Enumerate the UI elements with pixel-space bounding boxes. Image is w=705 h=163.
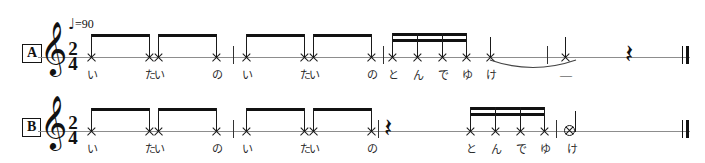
beam <box>313 108 372 111</box>
notehead-circle-x <box>564 125 577 138</box>
system-b: B 𝄞 2 4 𝄽 <box>0 85 705 163</box>
lyric-syllable: の <box>207 70 227 81</box>
beam <box>313 34 372 37</box>
notehead-x <box>515 126 526 137</box>
lyric-syllable: け <box>481 70 501 81</box>
barline <box>233 46 234 64</box>
lyric-extension-dash: — <box>556 70 576 81</box>
notehead-x <box>153 126 164 137</box>
eighth-rest-icon: 𝄽 <box>384 114 392 141</box>
notehead-x <box>211 52 222 63</box>
barline <box>233 120 234 138</box>
notehead-x <box>490 126 501 137</box>
beam-secondary <box>470 113 545 116</box>
notehead-x <box>86 52 97 63</box>
beam <box>470 107 545 110</box>
system-a: ♩=90 A 𝄞 2 4 <box>0 0 705 88</box>
lyric-syllable: い <box>237 144 257 155</box>
final-barline <box>682 46 690 64</box>
sheet-music: ♩=90 A 𝄞 2 4 <box>0 0 705 163</box>
treble-clef-icon: 𝄞 <box>40 99 67 145</box>
lyric-syllable: い <box>304 144 324 155</box>
lyric-syllable: い <box>82 144 102 155</box>
tempo-marking: ♩=90 <box>68 14 94 32</box>
notehead-x <box>461 52 472 63</box>
notehead-x <box>366 52 377 63</box>
lyric-syllable: の <box>362 70 382 81</box>
final-barline <box>682 120 690 138</box>
lyric-syllable: け <box>562 144 582 155</box>
notehead-x <box>437 52 448 63</box>
notehead-x <box>211 126 222 137</box>
barline <box>378 120 379 138</box>
beam <box>246 108 305 111</box>
lyric-syllable: の <box>207 144 227 155</box>
lyric-syllable: と <box>461 144 481 155</box>
tempo-equals: = <box>75 17 82 31</box>
time-signature: 2 4 <box>65 41 81 71</box>
notehead-x <box>241 126 252 137</box>
notehead-x <box>366 126 377 137</box>
lyric-syllable: ん <box>408 70 428 81</box>
notehead-x <box>241 52 252 63</box>
staff-line <box>38 57 690 58</box>
lyric-syllable: い <box>237 70 257 81</box>
notehead-x <box>153 52 164 63</box>
notehead-x <box>308 126 319 137</box>
beam <box>158 108 217 111</box>
time-signature-denominator: 4 <box>65 56 81 71</box>
lyric-syllable: い <box>149 70 169 81</box>
tempo-bpm: 90 <box>82 17 94 31</box>
lyric-syllable: で <box>433 70 453 81</box>
notehead-x <box>387 52 398 63</box>
treble-clef-icon: 𝄞 <box>40 25 67 71</box>
lyric-syllable: と <box>383 70 403 81</box>
beam <box>91 108 150 111</box>
time-signature-denominator: 4 <box>65 130 81 145</box>
notehead-x <box>412 52 423 63</box>
beam-secondary <box>392 39 467 42</box>
lyric-syllable: い <box>82 70 102 81</box>
notehead-x <box>465 126 476 137</box>
lyric-syllable: ゆ <box>535 144 555 155</box>
barline <box>556 120 557 138</box>
notehead-x <box>560 52 571 63</box>
beam <box>158 34 217 37</box>
staff-line <box>38 131 690 132</box>
tempo-note-icon: ♩ <box>68 15 75 33</box>
lyric-syllable: で <box>511 144 531 155</box>
notehead-x <box>539 126 550 137</box>
beam <box>392 33 467 36</box>
rehearsal-mark-b: B <box>22 118 41 137</box>
lyric-syllable: ん <box>486 144 506 155</box>
beam <box>246 34 305 37</box>
barline <box>383 46 384 64</box>
lyric-syllable: い <box>304 70 324 81</box>
lyric-syllable: の <box>362 144 382 155</box>
notehead-x <box>308 52 319 63</box>
lyric-syllable: い <box>149 144 169 155</box>
time-signature: 2 4 <box>65 115 81 145</box>
beam <box>91 34 150 37</box>
eighth-rest-icon: 𝄽 <box>625 40 633 67</box>
notehead-x <box>86 126 97 137</box>
lyric-syllable: ゆ <box>457 70 477 81</box>
